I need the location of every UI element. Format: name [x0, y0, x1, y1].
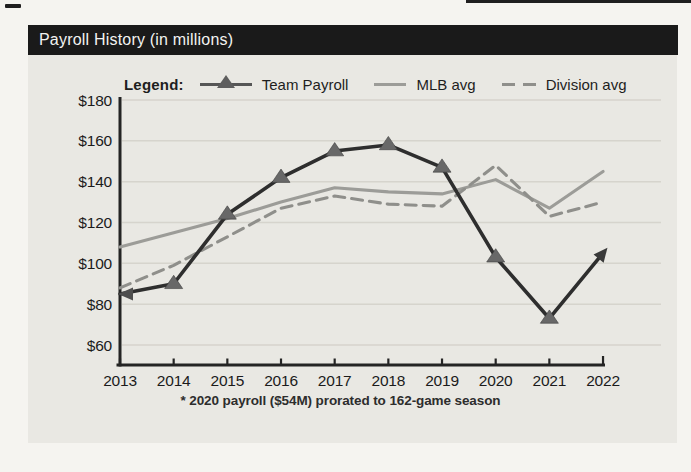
y-tick-label-100: $100 — [78, 255, 112, 272]
chart-title: Payroll History (in millions) — [28, 31, 233, 49]
y-tick-label-160: $160 — [78, 132, 112, 149]
payroll-history-line-chart: 2013201420152016201720182019202020212022… — [28, 55, 677, 443]
line-mlb-avg — [120, 171, 603, 247]
chart-panel: 2013201420152016201720182019202020212022… — [28, 55, 677, 443]
chart-title-bar: Payroll History (in millions) — [28, 25, 678, 55]
division-avg-dashed-line-icon — [502, 83, 536, 86]
x-tick-label-2019: 2019 — [425, 372, 459, 389]
team-payroll-triangle-marker-2020 — [487, 249, 505, 262]
x-tick-label-2017: 2017 — [318, 372, 352, 389]
mlb-avg-solid-line-icon — [374, 83, 406, 86]
chart-legend: Legend: Team Payroll MLB avg Division av… — [124, 71, 627, 97]
x-tick-label-2015: 2015 — [210, 372, 244, 389]
legend-item-mlb-avg: MLB avg — [374, 76, 475, 93]
team-payroll-triangle-marker-2018 — [379, 136, 397, 149]
chart-footnote: * 2020 payroll ($54M) prorated to 162-ga… — [28, 393, 653, 408]
legend-item-division-avg-label: Division avg — [546, 76, 627, 93]
x-tick-label-2022: 2022 — [586, 372, 620, 389]
x-tick-label-2021: 2021 — [533, 372, 567, 389]
y-tick-label-140: $140 — [78, 173, 112, 190]
x-tick-label-2020: 2020 — [479, 372, 513, 389]
team-payroll-triangle-marker-2015 — [218, 206, 236, 219]
y-tick-label-80: $80 — [87, 296, 113, 313]
x-tick-label-2014: 2014 — [157, 372, 191, 389]
legend-item-team-payroll: Team Payroll — [200, 76, 349, 93]
scan-artifact-top-edge — [466, 0, 691, 3]
team-payroll-triangle-line-icon — [200, 77, 252, 91]
legend-item-mlb-avg-label: MLB avg — [416, 76, 475, 93]
scan-artifact-top-left — [5, 4, 21, 8]
x-tick-label-2016: 2016 — [264, 372, 298, 389]
y-tick-label-120: $120 — [78, 214, 112, 231]
legend-item-team-payroll-label: Team Payroll — [262, 76, 349, 93]
y-tick-label-180: $180 — [78, 92, 112, 109]
legend-label: Legend: — [124, 76, 184, 93]
line-team-payroll — [120, 145, 603, 319]
x-tick-label-2013: 2013 — [103, 372, 137, 389]
legend-item-division-avg: Division avg — [502, 76, 627, 93]
x-tick-label-2018: 2018 — [372, 372, 406, 389]
y-tick-label-60: $60 — [87, 337, 113, 354]
